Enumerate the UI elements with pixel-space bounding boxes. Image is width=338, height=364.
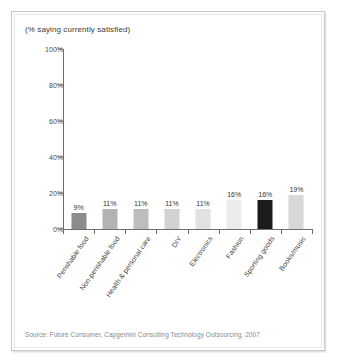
x-axis-category-label: Electronics — [188, 235, 214, 268]
bar-slot: 11% — [125, 49, 156, 229]
bar[interactable] — [164, 209, 179, 229]
bar-value-label: 9% — [74, 204, 84, 211]
x-axis-category-label: Sporting goods — [243, 235, 276, 278]
chart-title: (% saying currently satisfied) — [25, 25, 130, 34]
bar-slot: 11% — [94, 49, 125, 229]
x-axis-category-labels: Perishable foodNon-perishable foodHealth… — [63, 235, 312, 319]
bar[interactable] — [196, 209, 211, 229]
bar[interactable] — [289, 195, 304, 229]
bar[interactable] — [227, 200, 242, 229]
bar-slot: 16% — [250, 49, 281, 229]
y-axis-tick-label: 100% — [23, 46, 63, 53]
bar-slot: 11% — [156, 49, 187, 229]
x-axis-category-label: Fashion — [225, 235, 245, 260]
x-axis-tick-mark — [125, 229, 126, 234]
chart-figure-frame: (% saying currently satisfied) 0%20%40%6… — [11, 11, 325, 351]
x-axis-tick-mark — [94, 229, 95, 234]
bar-value-label: 11% — [134, 200, 148, 207]
bar-slot: 9% — [63, 49, 94, 229]
y-axis-tick-label: 0% — [23, 226, 63, 233]
bar-value-label: 16% — [227, 191, 241, 198]
bar-slot: 11% — [188, 49, 219, 229]
bar-value-label: 11% — [196, 200, 210, 207]
bar[interactable] — [133, 209, 148, 229]
plot-area: 0%20%40%60%80%100% 9%11%11%11%11%16%16%1… — [15, 43, 323, 261]
bar[interactable] — [102, 209, 117, 229]
bar-series: 9%11%11%11%11%16%16%19% — [63, 49, 312, 229]
bar-value-label: 16% — [258, 191, 272, 198]
bar-value-label: 11% — [103, 200, 117, 207]
x-axis-tick-mark — [250, 229, 251, 234]
x-axis-tick-mark — [219, 229, 220, 234]
bar-slot: 16% — [219, 49, 250, 229]
source-note: Source: Future Consumer, Capgemini Consu… — [25, 331, 260, 338]
y-axis-tick-label: 40% — [23, 154, 63, 161]
x-axis-tick-mark — [281, 229, 282, 234]
bar[interactable] — [71, 213, 86, 229]
x-axis-tick-mark — [156, 229, 157, 234]
bar-value-label: 19% — [289, 186, 303, 193]
chart-figure-inner: (% saying currently satisfied) 0%20%40%6… — [14, 14, 322, 348]
x-axis-category-label: DIY — [170, 235, 183, 249]
bar-slot: 19% — [281, 49, 312, 229]
y-axis-tick-label: 60% — [23, 118, 63, 125]
x-axis-tick-mark — [312, 229, 313, 234]
x-axis-category-label: Books/music — [278, 235, 307, 272]
bar[interactable] — [258, 200, 273, 229]
y-axis-tick-label: 80% — [23, 82, 63, 89]
x-axis-tick-mark — [188, 229, 189, 234]
y-axis-tick-label: 20% — [23, 190, 63, 197]
x-axis-tick-mark — [63, 229, 64, 234]
bar-value-label: 11% — [165, 200, 179, 207]
